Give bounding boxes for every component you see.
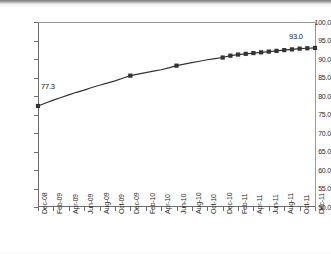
first-value-label: 77.3: [41, 83, 55, 91]
x-tick-label: Jun-10: [180, 194, 187, 214]
x-tick-label: Feb-10: [149, 193, 156, 214]
plot-border-top: [38, 22, 316, 23]
y-tick-label: 100.0: [297, 19, 331, 26]
plot-area: [38, 22, 315, 207]
x-tick-label: Dec-10: [226, 193, 233, 214]
y-tick-label: 80.0: [297, 93, 331, 100]
x-tick-mark: [284, 207, 285, 211]
x-tick-label: Dec-11: [318, 193, 325, 214]
x-tick-mark: [192, 207, 193, 211]
x-tick-mark: [253, 207, 254, 211]
y-tick-label: 90.0: [297, 56, 331, 63]
y-tick-label: 55.0: [297, 185, 331, 192]
y-tick-mark: [34, 133, 38, 134]
y-tick-mark: [34, 115, 38, 116]
x-tick-label: Jun-09: [87, 194, 94, 214]
x-tick-label: Oct-10: [210, 194, 217, 214]
x-tick-mark: [146, 207, 147, 211]
y-tick-label: 75.0: [297, 111, 331, 118]
y-tick-label: 85.0: [297, 74, 331, 81]
y-tick-mark: [34, 41, 38, 42]
y-tick-label: 60.0: [297, 167, 331, 174]
x-tick-mark: [115, 207, 116, 211]
x-tick-label: Apr-10: [164, 194, 171, 214]
x-tick-mark: [130, 207, 131, 211]
y-tick-mark: [34, 22, 38, 23]
x-tick-label: Aug-09: [103, 193, 110, 214]
x-tick-label: Apr-11: [256, 195, 263, 214]
x-tick-mark: [223, 207, 224, 211]
x-tick-label: Apr-09: [72, 194, 79, 214]
line-chart: 100.095.090.085.080.075.070.065.060.055.…: [0, 0, 331, 254]
x-tick-mark: [315, 207, 316, 211]
y-tick-label: 70.0: [297, 130, 331, 137]
last-value-label: 93.0: [289, 33, 303, 41]
y-tick-mark: [34, 59, 38, 60]
x-tick-label: Oct-11: [303, 195, 310, 214]
x-tick-label: Oct-09: [118, 194, 125, 214]
x-tick-label: Dec-08: [41, 193, 48, 214]
y-tick-mark: [34, 152, 38, 153]
y-tick-mark: [34, 78, 38, 79]
x-tick-label: Feb-11: [241, 194, 248, 214]
x-tick-mark: [53, 207, 54, 211]
x-tick-mark: [100, 207, 101, 211]
y-tick-mark: [34, 189, 38, 190]
x-tick-mark: [177, 207, 178, 211]
y-tick-mark: [34, 96, 38, 97]
x-tick-label: Aug-11: [287, 193, 294, 214]
x-tick-label: Jun-11: [272, 194, 279, 214]
x-tick-label: Aug-10: [195, 193, 202, 214]
x-tick-mark: [38, 207, 39, 211]
y-tick-mark: [34, 170, 38, 171]
x-tick-mark: [238, 207, 239, 211]
x-tick-label: Dec-09: [133, 193, 140, 214]
x-tick-mark: [161, 207, 162, 211]
x-tick-mark: [207, 207, 208, 211]
x-tick-mark: [300, 207, 301, 211]
x-tick-mark: [269, 207, 270, 211]
x-tick-mark: [69, 207, 70, 211]
y-tick-label: 65.0: [297, 148, 331, 155]
x-tick-label: Feb-09: [56, 193, 63, 214]
x-tick-mark: [84, 207, 85, 211]
